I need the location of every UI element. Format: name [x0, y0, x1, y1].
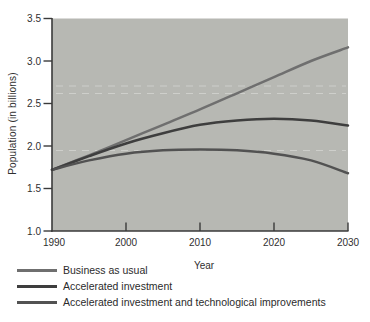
legend-label: Business as usual: [63, 264, 148, 276]
legend-label: Accelerated investment: [63, 280, 172, 292]
y-tick-label: 3.0: [27, 56, 41, 67]
legend-line-swatch: [17, 301, 57, 304]
legend-item-accelerated-investment: Accelerated investment: [17, 280, 326, 292]
legend-item-business-as-usual: Business as usual: [17, 264, 326, 276]
y-tick-label: 2.0: [27, 141, 41, 152]
x-tick-label: 2000: [115, 237, 138, 248]
x-tick-label: 2020: [263, 237, 286, 248]
legend: Business as usual Accelerated investment…: [17, 264, 326, 308]
x-tick-label: 2010: [189, 237, 212, 248]
legend-label: Accelerated investment and technological…: [63, 296, 326, 308]
legend-line-swatch: [17, 285, 57, 288]
y-tick-label: 1.0: [27, 226, 41, 237]
y-tick-label: 1.5: [27, 183, 41, 194]
y-tick-label: 2.5: [27, 98, 41, 109]
population-projection-chart: 199020002010202020301.01.52.02.53.03.5 P…: [0, 0, 370, 322]
legend-item-accelerated-investment-tech: Accelerated investment and technological…: [17, 296, 326, 308]
legend-line-swatch: [17, 269, 57, 272]
y-axis-title: Population (in billions): [7, 59, 18, 189]
x-tick-label: 2030: [337, 237, 360, 248]
y-tick-label: 3.5: [27, 13, 41, 24]
x-tick-label: 1990: [43, 237, 66, 248]
